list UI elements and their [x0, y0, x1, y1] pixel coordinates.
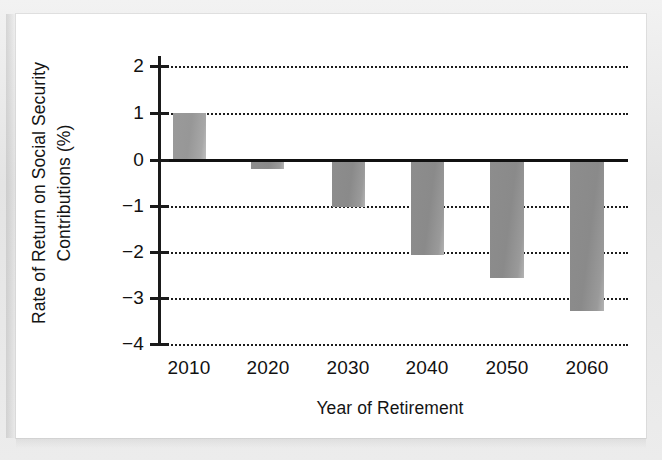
x-tick-label-2060: 2060 [547, 357, 627, 379]
gridline-neg2 [160, 252, 628, 254]
y-tick-mark-neg4 [150, 343, 169, 346]
y-tick-label-2: 2 [100, 55, 144, 77]
gridline-2 [160, 66, 628, 68]
y-tick-label-neg3: −3 [100, 287, 144, 309]
gridline-1 [160, 113, 628, 115]
x-tick-label-2010: 2010 [149, 357, 229, 379]
y-tick-label-neg2: −2 [100, 241, 144, 263]
x-tick-label-2030: 2030 [308, 357, 388, 379]
y-tick-mark-2 [150, 65, 169, 68]
bar-2010 [173, 113, 206, 160]
bar-2030 [332, 160, 365, 207]
y-tick-mark-neg3 [150, 297, 169, 300]
y-axis-spine [158, 56, 161, 346]
y-tick-label-neg4: −4 [100, 333, 144, 355]
y-tick-mark-neg1 [150, 205, 169, 208]
x-tick-label-2050: 2050 [467, 357, 547, 379]
y-tick-label-1: 1 [100, 102, 144, 124]
bar-2050 [490, 160, 524, 278]
x-axis-title: Year of Retirement [150, 398, 630, 419]
gridline-neg3 [160, 298, 628, 300]
gridline-neg1 [160, 206, 628, 208]
gridline-neg4 [160, 344, 628, 346]
bar-2060 [570, 160, 604, 311]
y-axis-title: Rate of Return on Social Security Contri… [27, 23, 77, 363]
y-tick-mark-neg2 [150, 251, 169, 254]
x-tick-label-2020: 2020 [228, 357, 308, 379]
zero-axis-line [159, 159, 628, 162]
x-tick-label-2040: 2040 [387, 357, 467, 379]
bar-chart: 2 1 0 −1 −2 −3 −4 2010 2020 2030 2040 20… [0, 0, 662, 460]
y-tick-label-neg1: −1 [100, 195, 144, 217]
y-tick-label-0: 0 [100, 149, 144, 171]
figure-root: 2 1 0 −1 −2 −3 −4 2010 2020 2030 2040 20… [0, 0, 662, 460]
y-tick-mark-1 [150, 112, 169, 115]
bar-2040 [411, 160, 444, 255]
y-tick-mark-0 [150, 159, 169, 162]
